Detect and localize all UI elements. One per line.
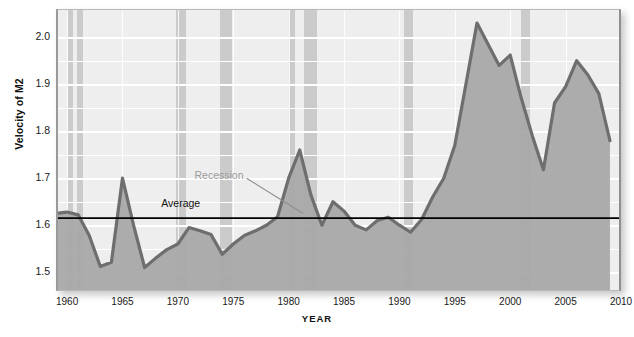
- y-tick-label: 1.7: [18, 171, 50, 183]
- y-axis-title: Velocity of M2: [13, 59, 25, 169]
- y-tick-label: 1.5: [18, 265, 50, 277]
- x-tick-label: 1980: [268, 296, 310, 307]
- chart-title: [0, 0, 634, 2]
- chart-figure: Velocity of M2 1.51.61.71.81.92.0 196019…: [0, 0, 634, 337]
- x-tick-label: 1975: [212, 296, 254, 307]
- y-tick-label: 1.6: [18, 218, 50, 230]
- x-axis-title: YEAR: [0, 313, 634, 324]
- plot-area: Recession Average: [56, 9, 621, 291]
- data-series-svg: [56, 9, 621, 291]
- x-tick-label: 1995: [434, 296, 476, 307]
- x-tick-label: 2005: [545, 296, 587, 307]
- x-tick-label: 1960: [46, 296, 88, 307]
- y-tick-label: 2.0: [18, 30, 50, 42]
- x-tick-label: 1990: [378, 296, 420, 307]
- x-tick-label: 2000: [489, 296, 531, 307]
- y-tick-label: 1.8: [18, 124, 50, 136]
- x-tick-label: 1985: [323, 296, 365, 307]
- average-annotation-label: Average: [161, 197, 200, 209]
- x-tick-label: 1970: [157, 296, 199, 307]
- x-tick-label: 1965: [101, 296, 143, 307]
- y-tick-label: 1.9: [18, 77, 50, 89]
- recession-annotation-label: Recession: [194, 169, 243, 181]
- x-tick-label: 2010: [600, 296, 634, 307]
